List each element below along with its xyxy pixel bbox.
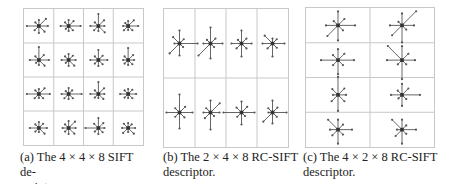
arrow-head-icon [34,89,36,91]
arrow-head-icon [213,46,215,48]
caption-c: (c) The 4 × 2 × 8 RC-SIFT descriptor. [303,150,443,180]
descriptor-histograms [24,9,143,145]
arrow-head-icon [65,28,67,30]
arrow-head-icon [250,42,252,44]
arrow-head-icon [127,97,129,99]
arrow-head-icon [103,127,105,129]
orientation-histogram [386,45,416,80]
arrow-head-icon [102,122,104,124]
arrow-head-icon [397,97,399,99]
arrow-head-icon [64,130,66,132]
arrow-head-icon [236,116,238,118]
arrow-head-icon [102,55,104,57]
arrow-head-icon [97,30,99,32]
arrow-head-icon [121,127,123,129]
caption-b-line2: descriptor. [163,165,303,180]
caption-c-line1: (c) The 4 × 2 × 8 RC-SIFT [303,150,443,165]
orientation-histogram [121,122,136,135]
arrow-head-icon [331,88,333,90]
orientation-histogram [26,18,49,34]
arrow-head-icon [97,65,99,67]
arrow-head-icon [49,93,51,95]
arrow-head-icon [104,31,106,33]
arrow-head-icon [184,106,186,108]
arrow-head-icon [276,116,278,118]
caption-b-line1: (b) The 2 × 4 × 8 RC-SIFT [163,150,303,165]
arrow-head-icon [401,143,403,145]
arrow-head-icon [64,123,66,125]
cell-center-icon [67,24,71,28]
arrow-head-icon [97,117,99,119]
arrow-head-icon [72,20,74,22]
arrow-head-icon [342,29,344,31]
arrow-head-icon [332,54,334,56]
arrow-head-icon [103,19,105,21]
arrow-head-icon [178,127,180,129]
cell-center-icon [67,126,71,130]
arrow-head-icon [123,55,125,57]
arrow-head-icon [386,59,388,61]
arrow-head-icon [72,97,74,99]
arrow-head-icon [34,29,36,31]
orientation-histogram [389,10,417,43]
arrow-head-icon [63,97,65,99]
orientation-histogram [84,117,105,135]
arrow-head-icon [397,21,399,23]
orientation-histogram [262,99,287,124]
arrow-head-icon [38,88,40,90]
arrow-head-icon [271,122,273,124]
arrow-head-icon [173,42,175,44]
arrow-head-icon [48,59,50,61]
arrow-head-icon [89,59,91,61]
arrow-head-icon [68,87,70,89]
descriptor-histograms [164,9,288,147]
arrow-head-icon [221,42,223,44]
arrow-head-icon [102,98,104,100]
arrow-head-icon [34,130,36,132]
arrow-head-icon [72,55,74,57]
arrow-head-icon [389,24,391,26]
arrow-head-icon [75,127,77,129]
arrow-head-icon [276,38,278,40]
arrow-head-icon [415,129,417,131]
arrow-head-icon [106,59,108,61]
arrow-head-icon [127,131,129,133]
arrow-head-icon [351,129,353,131]
arrow-head-icon [331,100,333,102]
arrow-head-icon [337,119,339,121]
arrow-head-icon [219,102,221,104]
orientation-histogram [331,76,348,112]
orientation-histogram [390,83,421,107]
orientation-histogram [320,48,355,75]
arrow-head-icon [122,59,124,61]
arrow-head-icon [204,117,206,119]
arrow-head-icon [127,47,129,49]
cell-center-icon [240,42,244,46]
cell-center-icon [67,58,71,62]
arrow-head-icon [102,131,104,133]
orientation-histogram [222,100,255,125]
orientation-histogram [327,119,353,145]
arrow-head-icon [240,123,242,125]
orientation-histogram [230,29,252,57]
caption-a-line1: (a) The 4 × 4 × 8 SIFT de- [20,150,148,180]
arrow-head-icon [103,87,105,89]
arrow-head-icon [127,20,129,22]
cell-center-icon [240,111,244,115]
arrow-head-icon [246,106,248,108]
arrow-head-icon [84,127,86,129]
arrow-head-icon [337,110,339,112]
arrow-head-icon [397,90,399,92]
arrow-head-icon [127,122,129,124]
arrow-head-icon [197,54,199,56]
orientation-histogram [122,47,135,66]
arrow-head-icon [183,116,185,118]
arrow-head-icon [26,25,28,27]
arrow-head-icon [230,42,232,44]
arrow-head-icon [45,18,47,20]
arrow-head-icon [337,39,339,41]
arrow-head-icon [61,59,63,61]
arrow-head-icon [38,32,40,34]
orientation-histogram [197,26,223,59]
arrow-head-icon [68,30,70,32]
